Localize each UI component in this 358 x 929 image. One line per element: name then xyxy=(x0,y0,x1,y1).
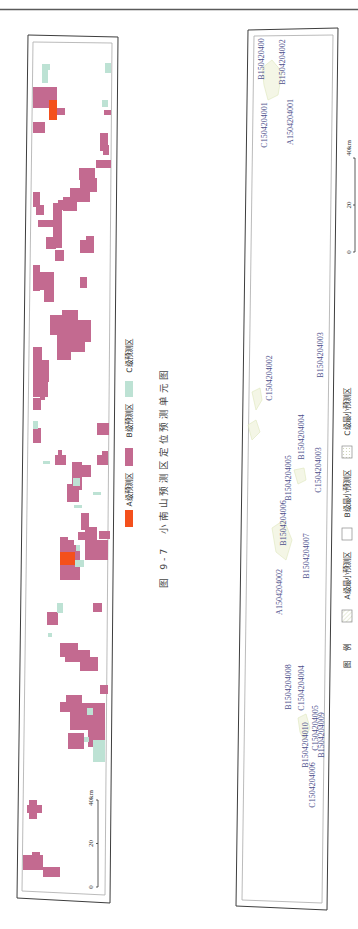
legend-label-a-level: A级预测区 xyxy=(124,472,134,506)
unit-label: B1504204009 xyxy=(317,712,326,757)
prediction-cell-c-level xyxy=(48,633,52,637)
prediction-cell-c-level xyxy=(74,505,82,508)
prediction-cell-b-level xyxy=(23,855,43,870)
scale-label-40km: 40km xyxy=(87,790,95,807)
scale-label-0: 0 xyxy=(87,885,95,889)
unit-label: C1504204001 xyxy=(260,102,269,147)
prediction-cell-b-level xyxy=(44,285,54,302)
prediction-cell-b-level xyxy=(27,805,42,813)
scale-label-20: 20 xyxy=(87,840,95,848)
legend-box-c-level xyxy=(342,446,352,458)
right-map: B150420400B1504204002C1504204001A1504204… xyxy=(236,28,338,910)
unit-label: B1504204004 xyxy=(297,414,306,459)
left-map-legend: A级预测区 B级预测区 C级预测区 xyxy=(124,338,134,527)
min-prediction-area-outline xyxy=(248,420,260,440)
figure-number: 图 9-7 xyxy=(158,546,169,589)
prediction-cell-b-level xyxy=(57,108,65,115)
prediction-cell-b-level xyxy=(46,237,56,249)
prediction-cell-a-level xyxy=(49,100,57,120)
left-map-scale-bar: 0 20 40km xyxy=(87,790,98,889)
legend-label-c-level: C级预测区 xyxy=(124,338,134,372)
prediction-cell-b-level xyxy=(47,612,58,625)
prediction-cell-c-level xyxy=(76,545,80,551)
unit-label: B1504204007 xyxy=(302,533,311,578)
unit-label: B1504204003 xyxy=(316,332,325,377)
prediction-cell-b-level xyxy=(38,220,53,227)
legend-swatch-c-level xyxy=(125,381,133,397)
prediction-cell-b-level xyxy=(104,110,111,115)
unit-label: C1504204006 xyxy=(308,762,317,807)
unit-label: C1504204004 xyxy=(297,665,306,710)
legend-swatch-a-level xyxy=(125,510,133,527)
unit-label: B150420400 xyxy=(257,38,266,79)
prediction-cell-b-level xyxy=(96,160,111,168)
figure-title: 小南山预测区定位预测单元图 xyxy=(158,368,169,534)
prediction-cell-c-level xyxy=(46,64,50,70)
document-page: 0 20 40km A级预测区 B级预测区 C级预测区 图 9-7 小南山预测区… xyxy=(0,0,358,929)
prediction-cell-b-level xyxy=(78,532,86,540)
prediction-unit-labels: B150420400B1504204002C1504204001A1504204… xyxy=(257,38,326,807)
legend-box-a-level xyxy=(342,610,352,622)
prediction-cell-b-level xyxy=(33,428,41,443)
unit-label: A1504204001 xyxy=(286,99,295,145)
prediction-cell-c-level xyxy=(93,740,105,762)
prediction-cell-c-level xyxy=(57,603,63,613)
unit-label: B1504204002 xyxy=(278,39,287,84)
unit-label: B1504204005 xyxy=(284,455,293,500)
prediction-cell-b-level xyxy=(67,484,79,502)
prediction-cell-b-level xyxy=(32,852,40,857)
right-map-legend: 图 例 A级最小预测区 B级最小预测区 C级最小预测区 xyxy=(342,387,353,668)
unit-label: C1504204003 xyxy=(314,447,323,492)
min-prediction-area-outline xyxy=(294,468,306,484)
legend-box-b-level xyxy=(342,528,352,540)
prediction-cell-c-level xyxy=(102,100,108,107)
prediction-cell-b-level xyxy=(97,455,108,465)
prediction-cell-b-level xyxy=(40,360,49,382)
prediction-cell-b-level xyxy=(33,122,45,133)
prediction-cell-c-level xyxy=(73,478,80,486)
prediction-cell-b-level xyxy=(68,733,84,749)
legend-label-a-min-area: A级最小预测区 xyxy=(342,551,352,599)
prediction-cell-b-level xyxy=(43,867,60,877)
prediction-cell-b-level xyxy=(100,685,108,694)
prediction-cell-b-level xyxy=(86,236,94,242)
prediction-cell-b-level xyxy=(93,603,102,612)
prediction-cell-b-level xyxy=(103,145,109,155)
scale-label-20: 20 xyxy=(345,201,353,209)
prediction-cell-b-level xyxy=(80,657,98,671)
prediction-cell-b-level xyxy=(80,465,91,477)
unit-label: B1504204006 xyxy=(279,500,288,545)
prediction-cell-c-level xyxy=(84,737,89,742)
prediction-cell-c-level xyxy=(105,63,111,73)
left-map-inner-frame xyxy=(22,42,112,895)
unit-label: C1504204002 xyxy=(265,355,274,400)
left-map: 0 20 40km xyxy=(17,35,118,903)
prediction-cell-b-level xyxy=(70,340,85,352)
right-map-scale-bar: 0 20 40km xyxy=(345,140,355,254)
prediction-cell-b-level xyxy=(33,192,40,207)
prediction-cell-b-level xyxy=(58,450,62,455)
prediction-cell-b-level xyxy=(80,277,87,288)
legend-label-c-min-area: C级最小预测区 xyxy=(342,387,352,435)
prediction-cell-c-level xyxy=(75,560,84,567)
prediction-cell-b-level xyxy=(95,540,108,560)
legend-swatch-b-level xyxy=(125,448,133,466)
minimum-prediction-areas xyxy=(248,60,310,740)
min-prediction-area-outline xyxy=(252,388,262,410)
scale-label-0: 0 xyxy=(345,250,353,254)
legend-title: 图 例 xyxy=(342,640,352,668)
prediction-cell-b-level xyxy=(99,531,110,539)
prediction-cell-c-level xyxy=(33,421,38,429)
prediction-unit-cells xyxy=(23,63,111,877)
prediction-cell-b-level xyxy=(97,423,109,435)
prediction-cell-c-level xyxy=(93,492,101,495)
prediction-cell-c-level xyxy=(87,708,93,715)
prediction-cell-b-level xyxy=(55,455,66,465)
prediction-cell-b-level xyxy=(33,265,40,291)
figure-caption: 图 9-7 小南山预测区定位预测单元图 xyxy=(158,368,169,589)
prediction-cell-b-level xyxy=(102,451,108,456)
scale-label-40km: 40km xyxy=(345,140,353,157)
legend-label-b-level: B级预测区 xyxy=(124,403,134,437)
prediction-cell-b-level xyxy=(33,380,48,397)
prediction-cell-b-level xyxy=(33,398,41,410)
